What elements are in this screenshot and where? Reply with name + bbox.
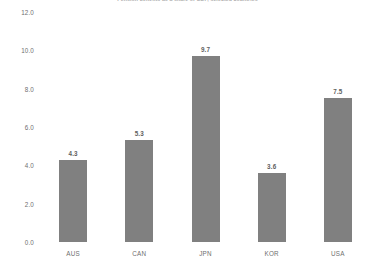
- bar-group: 7.5: [316, 12, 360, 242]
- bar-group: 5.3: [117, 12, 161, 242]
- bar-group: 4.3: [51, 12, 95, 242]
- y-axis-tick-label: 10.0: [21, 47, 34, 54]
- bar-value-label: 9.7: [201, 46, 210, 53]
- x-axis: AUSCANJPNKORUSA: [40, 244, 371, 268]
- chart-title: Pension benefits as a share of GDP, sele…: [0, 0, 375, 2]
- y-axis-tick-label: 6.0: [25, 124, 34, 131]
- bar-aus[interactable]: [59, 160, 87, 242]
- y-axis-tick-label: 8.0: [25, 85, 34, 92]
- x-axis-tick-label: JPN: [199, 250, 212, 257]
- bar-value-label: 3.6: [267, 163, 276, 170]
- x-axis-tick-label: USA: [331, 250, 345, 257]
- y-axis-tick-label: 4.0: [25, 162, 34, 169]
- bar-usa[interactable]: [324, 98, 352, 242]
- bar-group: 9.7: [184, 12, 228, 242]
- bar-jpn[interactable]: [192, 56, 220, 242]
- bar-group: 3.6: [250, 12, 294, 242]
- bar-value-label: 7.5: [333, 88, 342, 95]
- y-axis-tick-label: 12.0: [21, 9, 34, 16]
- bar-value-label: 5.3: [135, 130, 144, 137]
- y-axis-tick-label: 0.0: [25, 239, 34, 246]
- bar-can[interactable]: [125, 140, 153, 242]
- y-axis-tick-label: 2.0: [25, 200, 34, 207]
- x-axis-tick-label: CAN: [132, 250, 146, 257]
- plot-area: 4.35.39.73.67.5: [40, 12, 371, 242]
- x-axis-tick-label: AUS: [66, 250, 80, 257]
- bar-value-label: 4.3: [68, 150, 77, 157]
- x-axis-tick-label: KOR: [265, 250, 279, 257]
- bar-chart: Pension benefits as a share of GDP, sele…: [0, 0, 375, 268]
- bar-kor[interactable]: [258, 173, 286, 242]
- y-axis: 12.010.08.06.04.02.00.0: [0, 12, 40, 242]
